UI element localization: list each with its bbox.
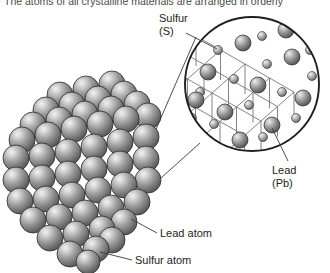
lattice-sulfur-atom <box>245 101 254 110</box>
lattice-sulfur-atom <box>278 88 287 97</box>
lattice-sulfur-atom <box>258 32 267 41</box>
lattice-sulfur-atom <box>230 75 239 84</box>
lattice-rod <box>163 65 188 79</box>
lattice-lead-atom <box>284 49 300 65</box>
label-sulfur-atom: Sulfur atom <box>135 254 191 267</box>
lattice-sulfur-atom <box>292 114 301 123</box>
crystal-sphere <box>113 106 139 132</box>
lattice-rod <box>147 80 172 94</box>
label-sulfur-element-line1: Sulfur <box>159 12 188 25</box>
lattice-lead-atom <box>232 132 248 148</box>
label-lead-element-line1: Lead <box>272 164 296 177</box>
lattice-lead-atom <box>200 64 216 80</box>
crystal-sphere <box>87 111 113 137</box>
label-lead-element: Lead (Pb) <box>272 164 296 190</box>
label-sulfur-element-line2: (S) <box>159 25 188 38</box>
label-sulfur-element: Sulfur (S) <box>159 12 188 38</box>
lattice-lead-atom <box>295 90 311 106</box>
lattice-lead-atom <box>250 77 266 93</box>
label-lead-element-line2: (Pb) <box>272 177 296 190</box>
lattice-lead-atom <box>217 104 233 120</box>
lattice-rod <box>147 65 164 80</box>
label-lead-atom: Lead atom <box>160 227 212 240</box>
lattice-sulfur-atom <box>259 133 268 142</box>
lattice-lead-atom <box>188 92 204 108</box>
lattice-sulfur-atom <box>214 46 223 55</box>
crystal-structure-figure: The atoms of all crystalline materials a… <box>0 0 330 273</box>
crystal-sphere <box>76 250 100 273</box>
lattice-lead-atom <box>235 35 251 51</box>
crystal-sphere <box>61 116 87 142</box>
lattice-sulfur-atom <box>308 72 317 81</box>
lattice-sulfur-atom <box>263 60 272 69</box>
lattice-rod <box>163 51 180 66</box>
lattice-sulfur-atom <box>210 120 219 129</box>
lattice-lead-atom <box>264 117 280 133</box>
crystal-sphere-cluster <box>3 71 161 273</box>
